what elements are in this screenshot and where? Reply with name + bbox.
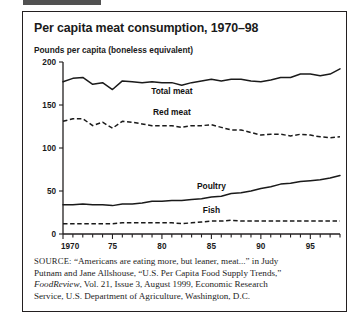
y-axis-tick-labels: 050100150200 [42, 58, 56, 239]
x-tick-label: 75 [108, 242, 118, 251]
series-label-fish: Fish [203, 205, 220, 215]
chart-title: Per capita meat consumption, 1970–98 [34, 21, 258, 35]
series-label-red-meat: Red meat [153, 107, 191, 117]
line-chart-svg: 050100150200 19707580859095 Total meatRe… [23, 56, 346, 262]
y-tick-label: 150 [42, 101, 56, 110]
source-lead-label: SOURCE: [34, 256, 72, 266]
source-line-1: SOURCE: “Americans are eating more, but … [34, 256, 334, 268]
y-tick-label: 50 [47, 187, 57, 196]
series-line-total-meat [63, 69, 340, 90]
source-line-3: FoodReview, Vol. 21, Issue 3, August 199… [34, 279, 334, 291]
y-tick-label: 100 [42, 144, 56, 153]
figure-container: Per capita meat consumption, 1970–98 Pou… [22, 11, 347, 312]
series-line-red-meat [63, 119, 340, 138]
source-line-4: Service, U.S. Department of Agriculture,… [34, 291, 334, 303]
chart-unit-label: Pounds per capita (boneless equivalent) [34, 45, 193, 55]
source-line-3-text: , Vol. 21, Issue 3, August 1999, Economi… [79, 279, 267, 289]
series-line-fish [63, 220, 340, 223]
series-inline-labels: Total meatRed meatPoultryFish [151, 86, 226, 216]
clipped-top-text [23, 0, 101, 5]
data-series-group [63, 69, 340, 224]
source-line-2: Putnam and Jane Allshouse, “U.S. Per Cap… [34, 268, 334, 280]
series-label-poultry: Poultry [197, 181, 226, 191]
x-axis-tick-marks [63, 234, 340, 239]
x-tick-label: 85 [207, 242, 217, 251]
source-line-1-text: “Americans are eating more, but leaner, … [72, 256, 279, 266]
x-tick-label: 95 [306, 242, 316, 251]
x-tick-label: 90 [256, 242, 266, 251]
x-tick-label: 1970 [61, 242, 80, 251]
y-tick-label: 0 [51, 230, 56, 239]
y-tick-label: 200 [42, 58, 56, 67]
source-note: SOURCE: “Americans are eating more, but … [34, 256, 334, 302]
x-axis-tick-labels: 19707580859095 [61, 242, 315, 251]
x-tick-label: 80 [157, 242, 167, 251]
source-publication-name: FoodReview [34, 279, 79, 289]
series-label-total-meat: Total meat [151, 86, 192, 96]
plot-area: 050100150200 19707580859095 Total meatRe… [23, 56, 346, 262]
